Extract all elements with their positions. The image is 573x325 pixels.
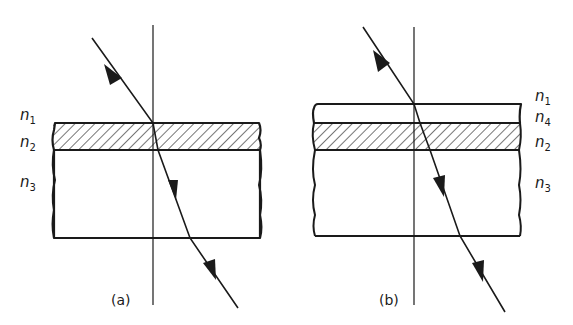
label-n4: n4 xyxy=(535,108,551,128)
arrow-head-transmitted xyxy=(472,260,484,282)
panel-a: n1 n2 n3 (a) xyxy=(20,25,262,308)
panel-b: n1 n4 n2 n3 (b) xyxy=(313,27,551,312)
arrow-head-transmitted xyxy=(203,259,216,280)
label-n1: n1 xyxy=(535,87,551,107)
refraction-diagram: n1 n2 n3 (a) n1 n4 n2 n3 (b) xyxy=(0,0,573,325)
arrow-head-incident xyxy=(373,50,390,72)
label-n2: n2 xyxy=(535,133,551,153)
caption-b: (b) xyxy=(379,292,399,308)
light-ray xyxy=(363,27,505,312)
label-n3: n3 xyxy=(535,174,551,194)
label-n3: n3 xyxy=(20,173,36,193)
label-n1: n1 xyxy=(20,106,36,126)
label-n2: n2 xyxy=(20,133,36,153)
arrow-head-refracted xyxy=(433,175,445,197)
arrow-head-refracted xyxy=(168,180,178,200)
film-layer-n2 xyxy=(314,123,521,150)
caption-a: (a) xyxy=(111,292,131,308)
